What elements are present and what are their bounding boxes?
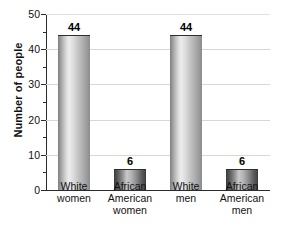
category-label-line: African [214, 180, 270, 192]
y-tick-major [41, 49, 46, 50]
y-tick-label: 40 [28, 44, 40, 55]
bar-value-label: 6 [114, 155, 146, 167]
category-label-line: women [46, 192, 102, 204]
y-axis-title: Number of people [12, 20, 24, 160]
bar-value-label: 44 [58, 21, 90, 33]
category-label-line: African [102, 180, 158, 192]
y-tick-label: 20 [28, 114, 40, 125]
y-tick-minor [43, 67, 46, 68]
y-tick-label: 0 [34, 185, 40, 196]
y-axis-line [46, 14, 47, 190]
category-label-line: women [102, 204, 158, 216]
y-tick-major [41, 120, 46, 121]
category-label-line: American [102, 192, 158, 204]
category-label-line: American [214, 192, 270, 204]
y-tick-label: 30 [28, 79, 40, 90]
y-tick-major [41, 155, 46, 156]
y-tick-minor [43, 137, 46, 138]
y-tick-minor [43, 32, 46, 33]
category-label-line: men [158, 192, 214, 204]
y-tick-label: 10 [28, 150, 40, 161]
y-tick-minor [43, 102, 46, 103]
bar-chart: Number of people 01020304050 446446 Whit… [0, 0, 282, 238]
y-tick-major [41, 14, 46, 15]
x-axis-category-label: AfricanAmericanwomen [102, 180, 158, 216]
y-tick-major [41, 84, 46, 85]
y-tick-label: 50 [28, 9, 40, 20]
bar: 44 [170, 35, 202, 190]
x-axis-category-label: Whitemen [158, 180, 214, 204]
plot-area: 01020304050 446446 [46, 14, 270, 190]
y-tick-minor [43, 172, 46, 173]
x-axis-category-label: AfricanAmericanmen [214, 180, 270, 216]
bar: 44 [58, 35, 90, 190]
x-axis-category-label: Whitewomen [46, 180, 102, 204]
category-label-line: men [214, 204, 270, 216]
category-label-line: White [46, 180, 102, 192]
bar-value-label: 6 [226, 155, 258, 167]
gridline [46, 14, 270, 15]
bar-value-label: 44 [170, 21, 202, 33]
category-label-line: White [158, 180, 214, 192]
